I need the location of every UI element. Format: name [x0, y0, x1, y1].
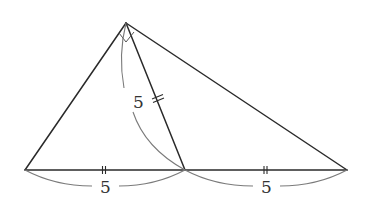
- median-brace-arc-upper: [121, 23, 126, 88]
- tick-am-2: [153, 98, 164, 103]
- median-length-label: 5: [133, 92, 144, 112]
- left-brace-arc-b: [119, 170, 185, 186]
- left-brace-arc-a: [25, 170, 92, 186]
- left-base-length-label: 5: [100, 177, 111, 197]
- median-brace-arc-lower: [133, 112, 185, 170]
- right-base-length-label: 5: [261, 177, 272, 197]
- tick-am-1: [152, 95, 163, 100]
- right-brace-arc-b: [280, 170, 347, 186]
- geometry-figure: 5 5 5: [0, 0, 377, 213]
- triangle-diagram: 5 5 5: [0, 0, 377, 213]
- right-brace-arc-a: [185, 170, 253, 186]
- edge-ab: [25, 23, 126, 170]
